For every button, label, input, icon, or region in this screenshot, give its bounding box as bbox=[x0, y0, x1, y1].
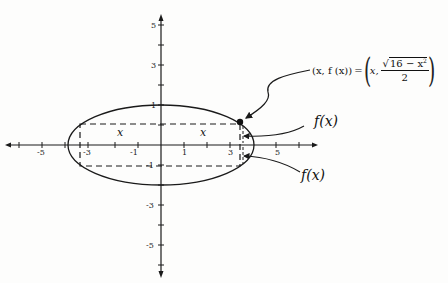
y-tick-label: -3 bbox=[146, 201, 154, 210]
fx-label-upper: f(x) bbox=[313, 113, 338, 129]
fx-label-lower: f(x) bbox=[300, 167, 325, 183]
ellipse-diagram: -5 -3 -1 1 3 5 5 3 1 -1 -3 -5 bbox=[0, 0, 448, 283]
left-half-width-label: x bbox=[117, 126, 124, 139]
x-axis-right-arrow-icon bbox=[312, 143, 318, 148]
formula-denominator: 2 bbox=[402, 71, 408, 83]
y-tick-label: -5 bbox=[146, 241, 154, 250]
formula-numerator: √16 − x2 bbox=[381, 57, 429, 71]
formula-pointer-arrow bbox=[246, 70, 310, 118]
y-axis: 5 3 1 -1 -3 -5 bbox=[146, 14, 164, 278]
y-axis-down-arrow-icon bbox=[159, 271, 164, 278]
formula-lhs: (x, f (x)) bbox=[312, 65, 352, 76]
right-half-width-label: x bbox=[200, 126, 207, 139]
y-tick-label: 3 bbox=[151, 61, 156, 70]
point-on-ellipse bbox=[237, 119, 243, 125]
y-tick-label: 5 bbox=[151, 21, 156, 30]
sqrt-radicand: 16 − x bbox=[390, 58, 423, 69]
right-paren-icon: ) bbox=[428, 53, 435, 87]
x-tick-label: 3 bbox=[228, 148, 233, 157]
formula-equals: = bbox=[354, 65, 362, 76]
point-formula: (x, f (x)) = ( x, √16 − x2 2 ) bbox=[312, 50, 434, 90]
x-tick-label: 5 bbox=[275, 148, 280, 157]
x-tick-label: 1 bbox=[182, 148, 187, 157]
y-axis-up-arrow-icon bbox=[159, 14, 164, 21]
x-tick-label: -3 bbox=[83, 148, 91, 157]
x-tick-label: -5 bbox=[37, 148, 45, 157]
left-paren-icon: ( bbox=[364, 53, 371, 87]
x-axis-left-arrow-icon bbox=[5, 143, 11, 148]
x-tick-label: -1 bbox=[130, 148, 138, 157]
fx-upper-pointer-arrow bbox=[244, 126, 304, 136]
radicand-exponent: 2 bbox=[423, 57, 427, 64]
fx-lower-pointer-arrow bbox=[244, 156, 300, 172]
formula-fraction: √16 − x2 2 bbox=[381, 57, 429, 83]
